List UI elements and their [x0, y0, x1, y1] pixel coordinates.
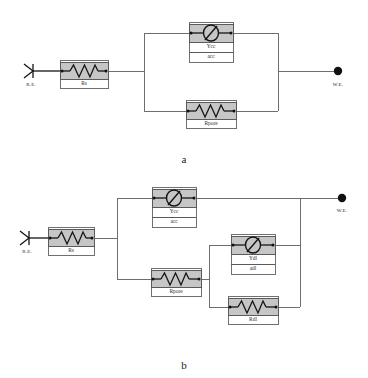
ydl-b-label-top: Ydl [249, 255, 258, 261]
ycc-b-label-bottom: acc [170, 218, 178, 224]
circuit-b-group: R.E. Rs [20, 187, 347, 371]
terminal-we-a-label: W.E. [333, 82, 344, 87]
rs-a-label: Rs [81, 80, 87, 86]
terminal-we-b [338, 194, 346, 202]
terminal-we-b-label: W.E. [337, 208, 348, 213]
terminal-re-b [20, 231, 48, 245]
figure-root: R.E. Rs [0, 0, 368, 378]
rs-b-label: Rs [68, 247, 74, 253]
ycc-a-label-bottom: acc [207, 53, 215, 59]
caption-a: a [182, 153, 187, 165]
ydl-b-label-bottom: adl [250, 265, 257, 271]
rdl-b-label: Rdl [249, 316, 257, 322]
terminal-we-a [334, 67, 342, 75]
rpore-a-label: Rpore [204, 120, 218, 126]
rpore-b-label: Rpore [169, 288, 183, 294]
circuit-diagram-svg: R.E. Rs [0, 0, 368, 378]
circuit-a-group: R.E. Rs [24, 22, 343, 165]
terminal-re-a-label: R.E. [26, 82, 36, 87]
ycc-a-label-top: Ycc [207, 43, 216, 49]
caption-b: b [181, 359, 187, 371]
terminal-re-b-label: R.E. [22, 249, 32, 254]
ycc-b-label-top: Ycc [170, 208, 179, 214]
terminal-re-a [24, 64, 60, 78]
